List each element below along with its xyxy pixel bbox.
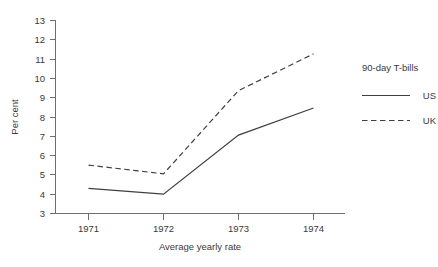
chart-legend: 90-day T-bills US UK <box>362 62 437 126</box>
y-tick-label: 12 <box>34 34 45 45</box>
y-tick-label: 5 <box>40 169 45 180</box>
chart-figure: 13 12 11 10 9 8 7 6 5 4 3 1971 <box>0 0 438 267</box>
series-line-uk <box>89 54 314 174</box>
x-axis-ticks: 1971 1972 1973 1974 <box>78 214 324 235</box>
y-axis-title: Per cent <box>9 99 20 135</box>
y-tick-label: 10 <box>34 73 45 84</box>
legend-title: 90-day T-bills <box>362 62 419 73</box>
x-tick-label: 1974 <box>303 223 324 234</box>
y-tick-label: 7 <box>40 131 45 142</box>
series-line-us <box>89 108 314 194</box>
y-tick-label: 3 <box>40 208 45 219</box>
x-tick-label: 1972 <box>153 223 174 234</box>
x-tick-label: 1971 <box>78 223 99 234</box>
x-axis-title: Average yearly rate <box>159 241 241 252</box>
y-tick-label: 9 <box>40 92 45 103</box>
legend-label-us: US <box>423 90 436 101</box>
y-tick-label: 11 <box>35 54 45 65</box>
y-tick-label: 8 <box>40 112 45 123</box>
line-chart: 13 12 11 10 9 8 7 6 5 4 3 1971 <box>0 0 438 267</box>
legend-label-uk: UK <box>423 115 437 126</box>
y-tick-label: 6 <box>40 150 45 161</box>
y-axis-ticks: 13 12 11 10 9 8 7 6 5 4 3 <box>34 15 55 219</box>
y-tick-label: 13 <box>34 15 45 26</box>
x-tick-label: 1973 <box>228 223 249 234</box>
y-tick-label: 4 <box>40 189 45 200</box>
